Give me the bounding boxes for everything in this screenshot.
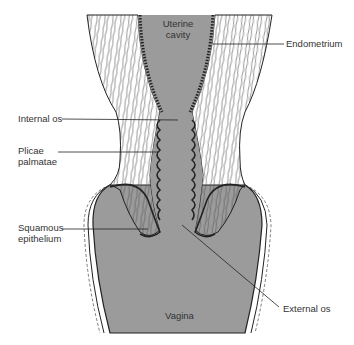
label-vagina: Vagina [165,310,194,321]
label-squamous-epithelium: Squamous epithelium [18,222,63,244]
label-plicae-palmatae: Plicae palmatae [18,145,57,167]
cervix-diagram [0,0,354,345]
label-external-os: External os [283,303,331,314]
label-endometrium: Endometrium [286,38,343,49]
label-uterine-cavity: Uterine cavity [160,18,196,40]
label-internal-os: Internal os [18,113,62,124]
